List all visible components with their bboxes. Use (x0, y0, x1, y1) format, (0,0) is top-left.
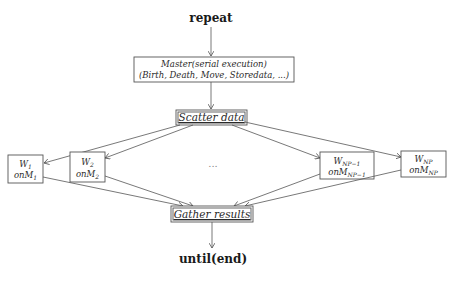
arrow-wnp1-to-gather (234, 174, 320, 206)
arrow-scatter-to-wnp1 (232, 125, 320, 158)
worker-node-1: W1 onM1 (8, 155, 43, 183)
worker-node-np-minus-1: WNP−1 onMNP−1 (320, 152, 374, 179)
master-title: Master(serial execution) (160, 59, 267, 69)
arrow-scatter-to-w1 (44, 125, 180, 163)
gather-label: Gather results (174, 208, 251, 220)
gather-node: Gather results (171, 206, 253, 222)
scatter-node: Scatter data (176, 110, 247, 125)
master-tasks: (Birth, Death, Move, Storedata, ...) (139, 70, 289, 80)
worker-node-np: WNP onMNP (401, 151, 446, 177)
scatter-label: Scatter data (179, 111, 245, 123)
ellipsis: ... (208, 158, 218, 169)
until-end-label: until(end) (179, 252, 247, 266)
repeat-label: repeat (189, 11, 233, 25)
master-node: Master(serial execution) (Birth, Death, … (134, 57, 294, 82)
parallel-flow-diagram: repeat Master(serial execution) (Birth, … (0, 0, 469, 281)
arrow-scatter-to-w2 (105, 125, 193, 158)
arrow-w1-to-gather (43, 177, 183, 206)
worker-node-2: W2 onM2 (70, 152, 105, 182)
arrow-w2-to-gather (105, 176, 193, 206)
